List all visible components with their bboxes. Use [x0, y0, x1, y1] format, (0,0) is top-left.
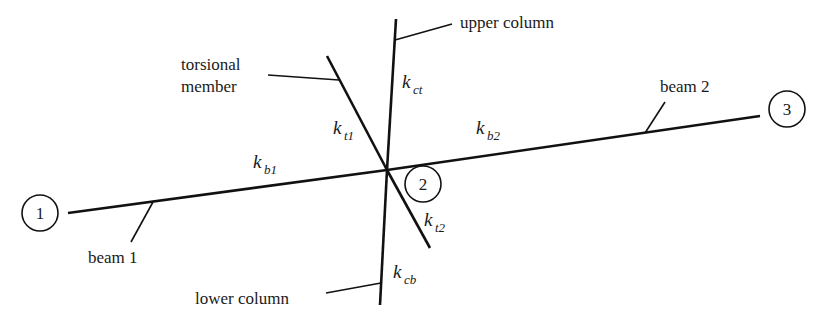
b1-subscript: b1: [264, 162, 277, 177]
upper-column-line: [387, 19, 396, 170]
joint-stiffness-diagram: upper column torsional member beam 2 bea…: [0, 0, 820, 320]
torsional-label-line2: member: [181, 77, 237, 96]
stiffness-kt1: k t1: [333, 117, 354, 143]
lower-column-label: lower column: [195, 289, 289, 308]
node-3-label: 3: [783, 100, 792, 119]
b2-subscript: b2: [487, 128, 501, 143]
k-symbol: k: [253, 151, 262, 172]
beam-2-label: beam 2: [660, 77, 710, 96]
torsional-member-leader: [268, 75, 339, 80]
beam-1-label: beam 1: [88, 248, 138, 267]
node-3: 3: [769, 91, 805, 127]
node-1-label: 1: [36, 204, 45, 223]
k-symbol: k: [424, 209, 433, 230]
k-symbol: k: [402, 71, 411, 92]
node-1: 1: [22, 195, 58, 231]
beam-2-leader: [645, 102, 665, 133]
t1-subscript: t1: [344, 128, 354, 143]
upper-column-label: upper column: [460, 13, 554, 32]
beam-1-leader: [131, 202, 153, 242]
lower-column-line: [380, 170, 387, 305]
stiffness-kct: k ct: [402, 71, 423, 97]
stiffness-kb2: k b2: [476, 117, 501, 143]
stiffness-kt2: k t2: [424, 209, 446, 235]
beam-2-line: [387, 116, 760, 170]
t2-subscript: t2: [435, 220, 446, 235]
stiffness-kb1: k b1: [253, 151, 277, 177]
beam-1-line: [68, 170, 387, 213]
upper-column-leader: [395, 24, 452, 40]
node-2: 2: [405, 166, 441, 202]
k-symbol: k: [333, 117, 342, 138]
stiffness-kcb: k cb: [393, 261, 417, 287]
cb-subscript: cb: [404, 272, 417, 287]
torsional-label-line1: torsional: [181, 55, 241, 74]
k-symbol: k: [476, 117, 485, 138]
lower-column-leader: [326, 283, 381, 293]
torsional-member-upper-line: [327, 56, 387, 170]
k-symbol: k: [393, 261, 402, 282]
ct-subscript: ct: [413, 82, 423, 97]
node-2-label: 2: [419, 175, 428, 194]
